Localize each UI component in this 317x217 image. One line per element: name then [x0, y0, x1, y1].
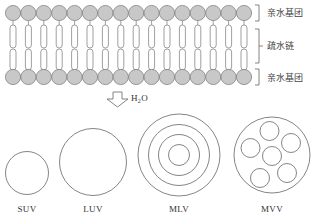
hydrophilic-head	[159, 69, 174, 84]
bracket-top	[255, 5, 259, 21]
hydrophobic-tail	[56, 25, 62, 48]
lipid-bilayer	[5, 5, 251, 84]
hydrophilic-head	[67, 69, 82, 84]
hydrophobic-tail	[56, 49, 62, 70]
hydrophobic-tail	[102, 25, 108, 48]
hydrophilic-head	[159, 5, 174, 20]
hydrophobic-tail	[210, 49, 216, 70]
hydrophobic-tail	[72, 25, 78, 48]
hydrophilic-head	[113, 69, 128, 84]
hydrophobic-tail	[118, 49, 124, 70]
hydrophilic-head	[236, 5, 251, 20]
hydrophobic-tail	[10, 25, 16, 48]
hydrophobic-tail	[133, 49, 139, 70]
hydrophilic-head	[98, 69, 113, 84]
lipid-molecule	[52, 5, 67, 84]
hydrophilic-head	[144, 5, 159, 20]
hydrophilic-head	[129, 69, 144, 84]
hydrophobic-tail	[226, 25, 232, 48]
label-mlv: MLV	[169, 204, 189, 214]
lipid-molecule	[236, 5, 251, 84]
hydrophobic-tail	[41, 25, 47, 48]
label-hydrophobic-chain: 疏水链	[267, 40, 294, 51]
label-mvv: MVV	[261, 204, 283, 214]
hydrophilic-head	[82, 69, 97, 84]
hydrophobic-tail	[164, 25, 170, 48]
hydrophobic-tail	[25, 49, 31, 70]
hydrophilic-head	[36, 5, 51, 20]
hydrophobic-tail	[226, 49, 232, 70]
lipid-molecule	[159, 5, 174, 84]
label-luv: LUV	[83, 204, 103, 214]
vesicle-luv	[60, 129, 127, 196]
lipid-molecule	[67, 5, 82, 84]
liposome-diagram: 亲水基团 疏水链 亲水基团 H2O SUV LUV MLV MVV	[0, 0, 317, 217]
hydrophilic-head	[206, 69, 221, 84]
hydrophobic-tail	[179, 49, 185, 70]
hydrophilic-head	[129, 5, 144, 20]
lipid-molecule	[175, 5, 190, 84]
lipid-molecule	[82, 5, 97, 84]
label-suv: SUV	[18, 204, 37, 214]
hydrophobic-tail	[241, 25, 247, 48]
hydrophobic-tail	[25, 25, 31, 48]
hydrophilic-head	[67, 5, 82, 20]
hydrophilic-head	[21, 5, 36, 20]
vesicle-mlv	[138, 114, 220, 196]
hydrophobic-tail	[164, 49, 170, 70]
lipid-molecule	[221, 5, 236, 84]
lipid-molecule	[21, 5, 36, 84]
hydrophilic-head	[175, 5, 190, 20]
hydrophilic-head	[5, 69, 20, 84]
hydrophobic-tail	[149, 49, 155, 70]
h2o-label: H2O	[131, 93, 148, 104]
hydrophilic-head	[206, 5, 221, 20]
lipid-molecule	[206, 5, 221, 84]
hydrophilic-head	[221, 5, 236, 20]
hydrophobic-tail	[149, 25, 155, 48]
hydrophilic-head	[236, 69, 251, 84]
lipid-molecule	[129, 5, 144, 84]
vesicle-suv	[6, 152, 49, 195]
hydrophobic-tail	[87, 25, 93, 48]
hydrophilic-head	[52, 5, 67, 20]
hydrophobic-tail	[195, 49, 201, 70]
hydrophilic-head	[98, 5, 113, 20]
hydrophobic-tail	[41, 49, 47, 70]
label-hydrophilic-top: 亲水基团	[267, 7, 303, 18]
hydrophobic-tail	[102, 49, 108, 70]
vesicle-mvv	[234, 117, 310, 193]
hydrophobic-tail	[118, 25, 124, 48]
hydrophilic-head	[21, 69, 36, 84]
lipid-molecule	[36, 5, 51, 84]
hydrophobic-tail	[87, 49, 93, 70]
lipid-molecule	[144, 5, 159, 84]
label-brackets	[255, 5, 263, 85]
lipid-molecule	[98, 5, 113, 84]
hydrophilic-head	[36, 69, 51, 84]
hydrophobic-tail	[195, 25, 201, 48]
bracket-middle	[255, 29, 259, 63]
hydrophobic-tail	[10, 49, 16, 70]
hydrophilic-head	[82, 5, 97, 20]
hydrophilic-head	[190, 5, 205, 20]
bracket-bottom	[255, 69, 259, 85]
down-arrow-icon	[107, 92, 128, 107]
lipid-molecule	[190, 5, 205, 84]
hydrophilic-head	[113, 5, 128, 20]
hydrophobic-tail	[210, 25, 216, 48]
lipid-molecule	[113, 5, 128, 84]
hydrophobic-tail	[241, 49, 247, 70]
hydrophobic-tail	[133, 25, 139, 48]
hydrophilic-head	[144, 69, 159, 84]
hydrophilic-head	[175, 69, 190, 84]
hydrophobic-tail	[179, 25, 185, 48]
hydrophilic-head	[221, 69, 236, 84]
lipid-molecule	[5, 5, 20, 84]
hydrophilic-head	[5, 5, 20, 20]
hydrophobic-tail	[72, 49, 78, 70]
hydrophilic-head	[190, 69, 205, 84]
label-hydrophilic-bottom: 亲水基团	[267, 72, 303, 83]
hydrophilic-head	[52, 69, 67, 84]
